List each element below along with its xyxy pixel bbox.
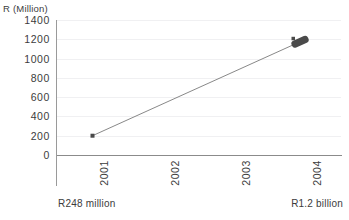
- annotation-end-value: R1.2 billion: [291, 198, 343, 209]
- y-axis-tick-label: 400: [6, 110, 50, 122]
- y-axis-tick-label: 600: [6, 91, 50, 103]
- y-axis-tick-label: 1200: [6, 33, 50, 45]
- y-axis-tick-label: 200: [6, 130, 50, 142]
- y-axis-tick-label: 0: [6, 149, 50, 161]
- x-axis-tick-label: 2001: [98, 160, 110, 186]
- revenue-growth-chart: R (Million) 0200400600800100012001400 20…: [0, 0, 349, 220]
- y-axis-line: [56, 20, 57, 186]
- y-axis-tick-labels: 0200400600800100012001400: [0, 0, 50, 220]
- x-axis-tick-label: 2003: [240, 160, 252, 186]
- annotation-start-value: R248 million: [58, 198, 115, 209]
- gridline: [57, 116, 341, 117]
- gridline: [57, 59, 341, 60]
- x-axis-tick-label: 2004: [311, 160, 323, 186]
- y-axis-tick-label: 1400: [6, 14, 50, 26]
- y-axis-tick-label: 1000: [6, 53, 50, 65]
- gridline: [57, 97, 341, 98]
- x-axis-tick-label: 2002: [169, 160, 181, 186]
- gridline: [57, 20, 341, 21]
- plot-area: [57, 20, 341, 155]
- gridline: [57, 136, 341, 137]
- x-axis-zero-line: [57, 155, 342, 156]
- gridline: [57, 39, 341, 40]
- y-axis-tick-label: 800: [6, 72, 50, 84]
- gridline: [57, 78, 341, 79]
